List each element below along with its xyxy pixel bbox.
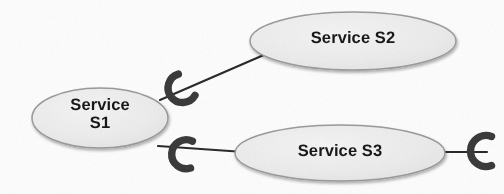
node-service-s3[interactable] [235, 125, 445, 181]
node-service-s1[interactable] [32, 88, 168, 148]
node-service-s2[interactable] [250, 12, 456, 70]
socket-icon-s1-s3 [171, 139, 193, 169]
diagram-svg [0, 0, 504, 194]
service-diagram: Service S1 Service S2 Service S3 [0, 0, 504, 194]
